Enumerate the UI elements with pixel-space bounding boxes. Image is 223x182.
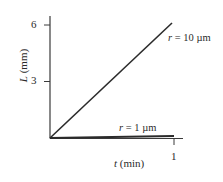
- series-label-r1-text: = 1 µm: [123, 122, 156, 133]
- series-label-r10: r = 10 µm: [168, 33, 211, 44]
- y-tick-label-6: 6: [31, 19, 37, 30]
- series-label-r1: r = 1 µm: [119, 123, 156, 134]
- series-line-r10: [50, 23, 172, 138]
- y-tick-label-3: 3: [31, 75, 37, 86]
- x-tick-label-1: 1: [171, 151, 177, 162]
- y-axis-title: L (mm): [18, 41, 29, 91]
- y-axis-var: L: [17, 76, 29, 82]
- y-axis-unit: (mm): [17, 49, 29, 73]
- series-line-r1: [50, 136, 174, 138]
- series-label-r10-text: = 10 µm: [172, 32, 211, 43]
- x-axis-title: t (min): [114, 158, 144, 169]
- x-axis-unit: (min): [120, 157, 144, 169]
- x-axis-var: t: [114, 157, 117, 169]
